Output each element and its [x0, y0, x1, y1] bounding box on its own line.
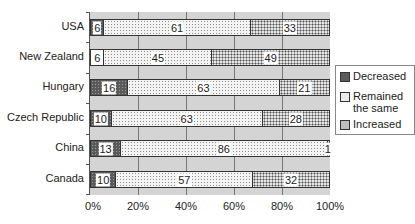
- bar-increased: 21: [280, 79, 330, 96]
- y-tick: [86, 134, 90, 135]
- plot-area: 6 61 33 6 45 49 16 63 21 10 63 28 13 86 …: [89, 12, 330, 195]
- value-label: 13: [98, 142, 112, 155]
- value-label: 1: [325, 142, 331, 155]
- bar-remained: 63: [112, 110, 263, 127]
- value-label: 16: [102, 81, 116, 94]
- legend-label: Remained the same: [353, 90, 403, 114]
- bar-row-czech-republic: 10 63 28: [90, 110, 330, 127]
- bar-increased: 32: [253, 171, 330, 188]
- x-tick-label: 20%: [127, 200, 149, 212]
- y-tick: [86, 194, 90, 195]
- y-tick: [86, 42, 90, 43]
- legend-label-line1: Remained: [353, 90, 403, 102]
- gridline-40: [186, 12, 187, 195]
- category-label-new-zealand: New Zealand: [19, 50, 84, 62]
- swatch-decreased-icon: [340, 72, 350, 82]
- bar-decreased: 6: [90, 49, 104, 66]
- bar-decreased: 16: [90, 79, 128, 96]
- bar-remained: 63: [128, 79, 279, 96]
- gridline-60: [234, 12, 235, 195]
- value-label: 10: [96, 173, 110, 186]
- y-tick: [86, 12, 90, 13]
- category-label-czech-republic: Czech Republic: [7, 111, 84, 123]
- legend-item-decreased: Decreased: [340, 70, 406, 82]
- bar-row-china: 13 86 1: [90, 140, 330, 157]
- x-tick-label: 0%: [85, 200, 101, 212]
- value-label: 28: [289, 112, 303, 125]
- bar-remained: 45: [104, 49, 212, 66]
- value-label: 63: [196, 81, 210, 94]
- x-tick-label: 100%: [316, 200, 344, 212]
- value-label: 63: [180, 112, 194, 125]
- legend-item-increased: Increased: [340, 118, 401, 130]
- bar-row-canada: 10 57 32: [90, 171, 330, 188]
- value-label: 6: [93, 21, 101, 34]
- bar-remained: 86: [121, 140, 327, 157]
- value-label: 61: [170, 21, 184, 34]
- legend-label: Increased: [353, 118, 401, 130]
- gridline-80: [282, 12, 283, 195]
- category-label-canada: Canada: [45, 172, 84, 184]
- y-tick: [86, 164, 90, 165]
- value-label: 10: [94, 112, 108, 125]
- legend-label-line2: the same: [353, 102, 398, 114]
- legend-label: Decreased: [353, 70, 406, 82]
- bar-decreased: 13: [90, 140, 121, 157]
- swatch-increased-icon: [340, 120, 350, 130]
- swatch-remained-icon: [340, 92, 350, 102]
- bar-increased: 1: [328, 140, 330, 157]
- bar-remained: 61: [104, 19, 250, 36]
- bar-decreased: 6: [90, 19, 104, 36]
- value-label: 86: [217, 142, 231, 155]
- x-tick-label: 80%: [271, 200, 293, 212]
- value-label: 49: [264, 51, 278, 64]
- bar-row-usa: 6 61 33: [90, 19, 330, 36]
- value-label: 21: [297, 81, 311, 94]
- bar-row-new-zealand: 6 45 49: [90, 49, 330, 66]
- bar-increased: 28: [263, 110, 330, 127]
- bar-decreased: 10: [90, 110, 112, 127]
- value-label: 32: [284, 173, 298, 186]
- value-label: 57: [177, 173, 191, 186]
- bar-decreased: 10: [90, 171, 116, 188]
- category-label-usa: USA: [61, 20, 84, 32]
- bar-increased: 33: [251, 19, 330, 36]
- x-tick-label: 60%: [223, 200, 245, 212]
- value-label: 45: [151, 51, 165, 64]
- x-tick-label: 40%: [175, 200, 197, 212]
- y-tick: [86, 73, 90, 74]
- y-tick: [86, 103, 90, 104]
- value-label: 33: [283, 21, 297, 34]
- bar-remained: 57: [116, 171, 253, 188]
- category-label-hungary: Hungary: [42, 80, 84, 92]
- gridline-20: [138, 12, 139, 195]
- legend: Decreased Remained the same Increased: [335, 65, 415, 135]
- legend-item-remained: Remained the same: [340, 90, 403, 114]
- category-label-china: China: [55, 141, 84, 153]
- bar-row-hungary: 16 63 21: [90, 79, 330, 96]
- bar-increased: 49: [212, 49, 330, 66]
- value-label: 6: [93, 51, 101, 64]
